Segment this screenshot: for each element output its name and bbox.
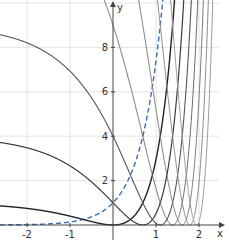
y-tick-label: 8 xyxy=(102,42,108,53)
x-tick-label: -2 xyxy=(22,229,32,240)
curve-k4 xyxy=(103,0,199,225)
curves xyxy=(0,0,213,225)
y-tick-label: 6 xyxy=(102,86,108,97)
x-tick-label: -1 xyxy=(65,229,75,240)
y-axis-arrow-icon xyxy=(110,1,116,7)
function-family-chart: x y -2-1122468 xyxy=(0,0,229,241)
tick-marks: -2-1122468 xyxy=(22,42,202,240)
x-axis-label: x xyxy=(217,228,223,239)
curve-k6 xyxy=(157,0,209,225)
x-tick-label: 1 xyxy=(153,229,159,240)
y-tick-label: 4 xyxy=(102,131,108,142)
curve-k0 xyxy=(0,0,164,225)
x-tick-label: 2 xyxy=(196,229,202,240)
y-tick-label: 2 xyxy=(102,175,108,186)
y-axis-label: y xyxy=(117,2,123,13)
curve-k1 xyxy=(0,0,175,225)
